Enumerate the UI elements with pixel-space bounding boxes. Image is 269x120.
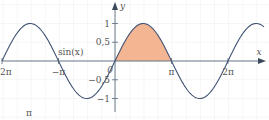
curve-label: sin(x) bbox=[58, 47, 83, 57]
y-axis-arrow-icon bbox=[112, 2, 118, 10]
x-tick-label: 2π bbox=[222, 67, 234, 77]
y-axis-label: y bbox=[119, 1, 126, 11]
y-tick-label: 1 bbox=[104, 19, 110, 29]
footnote-label: π bbox=[26, 108, 32, 118]
x-tick-label: −π bbox=[52, 67, 66, 77]
x-axis-arrow-icon bbox=[258, 58, 266, 64]
y-tick-label: −1 bbox=[97, 94, 110, 104]
x-tick-label: −2π bbox=[0, 67, 12, 77]
y-tick-label: −0,5 bbox=[88, 75, 110, 85]
origin-label: 0 bbox=[107, 65, 113, 75]
x-axis-label: x bbox=[256, 47, 261, 57]
sine-chart: −2π−ππ2π10,5−0,5−10xysin(x)π bbox=[0, 0, 269, 120]
x-tick-label: π bbox=[169, 67, 175, 77]
y-tick-label: 0,5 bbox=[96, 37, 111, 47]
